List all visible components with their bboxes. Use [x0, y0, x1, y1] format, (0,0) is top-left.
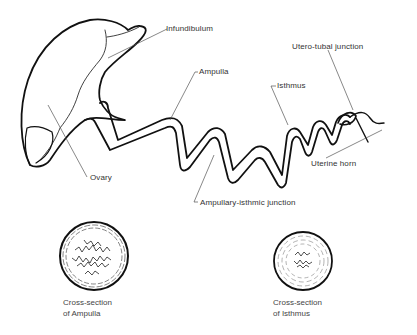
label-infundibulum: Infundibulum: [166, 24, 213, 34]
label-ampullary-isthmic-junction: Ampullary-isthmic junction: [200, 198, 296, 208]
uterine-horn-shape: [338, 113, 384, 142]
label-ampulla: Ampulla: [199, 67, 229, 77]
ampulla-cross-section: [60, 222, 128, 290]
oviduct-tube: [85, 102, 350, 188]
caption-line-2: of Isthmus: [273, 308, 322, 319]
caption-line-1: Cross-section: [63, 297, 112, 308]
oviduct-diagram: Infundibulum Ampulla Isthmus Utero-tubal…: [0, 0, 417, 335]
label-uterine-horn: Uterine horn: [311, 159, 356, 169]
caption-isthmus-cross-section: Cross-section of Isthmus: [273, 297, 322, 319]
label-utero-tubal-junction: Utero-tubal junction: [292, 42, 363, 52]
isthmus-cross-section: [274, 232, 332, 290]
caption-line-2: of Ampulla: [63, 308, 112, 319]
label-ovary: Ovary: [90, 173, 112, 183]
label-isthmus: Isthmus: [277, 81, 306, 91]
caption-line-1: Cross-section: [273, 297, 322, 308]
ovary-shape: [21, 19, 145, 166]
caption-ampulla-cross-section: Cross-section of Ampulla: [63, 297, 112, 319]
